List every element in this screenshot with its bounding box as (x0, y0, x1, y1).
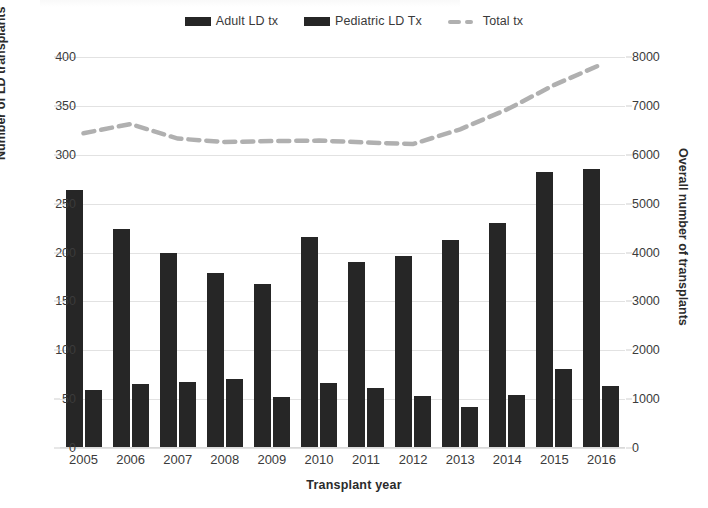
y-tick-mark-left (54, 399, 60, 400)
x-axis-tick-labels: 2005200620072008200920102011201220132014… (60, 452, 625, 474)
legend-item-total-tx[interactable]: Total tx (448, 14, 523, 28)
y-tick-mark-right (626, 448, 632, 449)
legend-label: Adult LD tx (216, 14, 278, 28)
y-tick-mark-right (626, 350, 632, 351)
bar-group-2012[interactable] (395, 57, 431, 448)
legend-item-pediatric-ld-tx[interactable]: Pediatric LD Tx (304, 14, 422, 28)
y-tick-label-right: 8000 (632, 50, 680, 64)
top-edge-artifact (40, 0, 460, 7)
x-axis-baseline (60, 447, 625, 448)
y-tick-mark-left (54, 57, 60, 58)
legend-item-adult-ld-tx[interactable]: Adult LD tx (185, 14, 278, 28)
bar-pediatric-2011[interactable] (367, 388, 384, 448)
bar-adult-2012[interactable] (395, 256, 412, 448)
x-tick-label-2011: 2011 (352, 452, 380, 467)
y-tick-mark-left (54, 448, 60, 449)
y-axis-title-left: Number of LD transplants (0, 7, 8, 161)
x-tick-label-2013: 2013 (446, 452, 475, 467)
bar-adult-2016[interactable] (583, 169, 600, 448)
bar-adult-2009[interactable] (254, 284, 271, 448)
x-tick-label-2016: 2016 (587, 452, 616, 467)
x-tick-label-2005: 2005 (69, 452, 98, 467)
dashed-line-swatch-icon (448, 17, 478, 26)
bar-group-2008[interactable] (207, 57, 243, 448)
y-tick-mark-right (626, 252, 632, 253)
bar-adult-2007[interactable] (160, 253, 177, 448)
x-tick-label-2014: 2014 (493, 452, 522, 467)
legend-label: Total tx (483, 14, 523, 28)
bar-group-2009[interactable] (254, 57, 290, 448)
bar-group-2015[interactable] (536, 57, 572, 448)
y-tick-mark-right (626, 105, 632, 106)
bar-adult-2015[interactable] (536, 172, 553, 448)
y-tick-label-right: 7000 (632, 99, 680, 113)
bar-swatch-icon (185, 17, 211, 26)
y-tick-label-right: 6000 (632, 148, 680, 162)
bar-series-layer (60, 57, 625, 448)
y-tick-mark-left (54, 252, 60, 253)
chart-legend: Adult LD tx Pediatric LD Tx Total tx (0, 14, 708, 28)
bar-pediatric-2007[interactable] (179, 382, 196, 448)
y-tick-mark-right (626, 57, 632, 58)
bar-adult-2005[interactable] (66, 190, 83, 448)
x-tick-label-2006: 2006 (116, 452, 145, 467)
y-tick-label-right: 5000 (632, 197, 680, 211)
bar-adult-2008[interactable] (207, 273, 224, 448)
bar-group-2010[interactable] (301, 57, 337, 448)
legend-label: Pediatric LD Tx (335, 14, 422, 28)
bar-group-2007[interactable] (160, 57, 196, 448)
bar-pediatric-2006[interactable] (132, 384, 149, 448)
bar-pediatric-2013[interactable] (461, 407, 478, 448)
y-tick-mark-right (626, 203, 632, 204)
y-tick-mark-left (54, 154, 60, 155)
y-tick-mark-left (54, 203, 60, 204)
bar-group-2011[interactable] (348, 57, 384, 448)
x-tick-label-2009: 2009 (257, 452, 286, 467)
bar-pediatric-2015[interactable] (555, 369, 572, 448)
bar-adult-2013[interactable] (442, 240, 459, 448)
y-tick-mark-left (54, 301, 60, 302)
x-tick-label-2007: 2007 (163, 452, 192, 467)
x-tick-label-2008: 2008 (210, 452, 239, 467)
y-tick-mark-right (626, 301, 632, 302)
y-tick-label-right: 3000 (632, 294, 680, 308)
bar-adult-2011[interactable] (348, 262, 365, 448)
bar-group-2006[interactable] (113, 57, 149, 448)
bar-pediatric-2014[interactable] (508, 395, 525, 448)
bar-adult-2014[interactable] (489, 223, 506, 448)
plot-area (60, 57, 625, 448)
y-tick-label-right: 2000 (632, 343, 680, 357)
bar-adult-2006[interactable] (113, 229, 130, 448)
bar-group-2016[interactable] (583, 57, 619, 448)
x-tick-label-2012: 2012 (399, 452, 428, 467)
bar-pediatric-2005[interactable] (85, 390, 102, 448)
bar-pediatric-2016[interactable] (602, 386, 619, 448)
y-tick-label-right: 1000 (632, 392, 680, 406)
bar-pediatric-2010[interactable] (320, 383, 337, 448)
y-tick-mark-left (54, 105, 60, 106)
x-tick-label-2015: 2015 (540, 452, 569, 467)
y-tick-label-right: 4000 (632, 246, 680, 260)
bar-group-2014[interactable] (489, 57, 525, 448)
bar-pediatric-2008[interactable] (226, 379, 243, 448)
y-tick-mark-left (54, 350, 60, 351)
x-axis-title: Transplant year (0, 478, 708, 492)
bar-pediatric-2009[interactable] (273, 397, 290, 448)
bar-pediatric-2012[interactable] (414, 396, 431, 448)
y-tick-mark-right (626, 154, 632, 155)
y-tick-label-right: 0 (632, 441, 680, 455)
gridline (60, 448, 625, 449)
y-tick-mark-right (626, 399, 632, 400)
bar-swatch-icon (304, 17, 330, 26)
x-tick-label-2010: 2010 (304, 452, 333, 467)
chart-figure: Adult LD tx Pediatric LD Tx Total tx Num… (0, 0, 708, 508)
bar-adult-2010[interactable] (301, 237, 318, 448)
bar-group-2013[interactable] (442, 57, 478, 448)
